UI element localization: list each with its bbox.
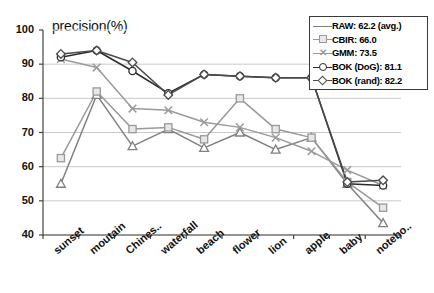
y-tick-label: 80 [0, 91, 34, 103]
data-point-raw [200, 143, 209, 151]
data-point-cbir [165, 124, 172, 131]
data-point-cbir [272, 125, 279, 132]
legend-label: CBIR: 66.0 [332, 34, 376, 45]
data-point-bok-rand [200, 70, 209, 79]
legend-marker-cross-icon: ✕ [313, 47, 332, 59]
data-point-cbir [380, 204, 387, 211]
legend-item: BOK (DoG): 81.1 [313, 60, 424, 74]
legend-label: BOK (rand): 82.2 [332, 75, 402, 86]
legend-item: BOK (rand): 82.2 [313, 73, 424, 87]
legend-marker-triangle-icon [313, 20, 332, 32]
y-tick-label: 40 [0, 228, 34, 240]
y-tick-label: 70 [0, 126, 34, 138]
y-tick-label: 60 [0, 160, 34, 172]
legend-marker-square-icon [313, 33, 332, 45]
legend-label: GMM: 73.5 [332, 47, 377, 58]
data-point-bok-dog [129, 67, 136, 74]
legend-marker-circle-icon [313, 61, 332, 73]
data-point-bok-rand [271, 74, 280, 83]
data-point-cbir [93, 88, 100, 95]
legend-label: BOK (DoG): 81.1 [332, 61, 402, 72]
series-line-cbir [61, 92, 383, 208]
data-point-gmm [308, 147, 316, 155]
data-point-gmm [344, 166, 352, 174]
legend-item: RAW: 62.2 (avg.) [313, 19, 424, 33]
legend-item: ✕GMM: 73.5 [313, 46, 424, 60]
series-line-raw [61, 95, 383, 223]
data-point-cbir [308, 134, 315, 141]
data-point-raw [57, 179, 66, 187]
data-point-bok-rand [92, 46, 101, 55]
legend-marker-diamond-icon [313, 74, 332, 86]
chart-container: precision(%) 100908070605040 sunsetmouta… [0, 0, 434, 293]
data-point-bok-rand [236, 72, 245, 81]
legend-item: CBIR: 66.0 [313, 33, 424, 47]
data-point-cbir [129, 125, 136, 132]
chart-legend: RAW: 62.2 (avg.)CBIR: 66.0✕GMM: 73.5BOK … [309, 16, 428, 90]
y-tick-label: 90 [0, 57, 34, 69]
legend-label: RAW: 62.2 (avg.) [332, 20, 401, 31]
y-tick-label: 100 [0, 23, 34, 35]
data-point-cbir [236, 95, 243, 102]
y-tick-label: 50 [0, 194, 34, 206]
data-point-cbir [201, 136, 208, 143]
data-point-cbir [57, 155, 64, 162]
